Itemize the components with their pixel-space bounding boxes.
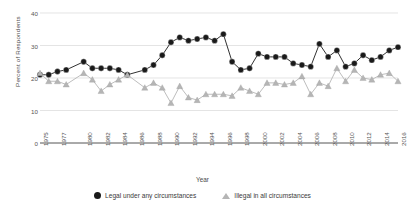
x-tick-label: 1988 (156, 132, 163, 146)
x-tick-label: 1984 (121, 132, 128, 146)
legend-label-illegal: Illegal in all circumstances (234, 192, 311, 199)
x-tick-label: 1994 (208, 132, 215, 146)
x-tick-label: 1980 (86, 132, 93, 146)
x-tick-label: 1982 (104, 132, 111, 146)
x-tick-label: 2016 (400, 132, 407, 146)
x-tick-label: 1990 (173, 132, 180, 146)
legend-item-illegal[interactable]: Illegal in all circumstances (222, 192, 311, 199)
x-tick-label: 1998 (243, 132, 250, 146)
x-tick-label: 1992 (191, 132, 198, 146)
x-tick-label: 2006 (313, 132, 320, 146)
x-tick-label: 1996 (226, 132, 233, 146)
x-tick-label: 1977 (60, 132, 67, 146)
x-tick-label: 2014 (383, 132, 390, 146)
legend-label-legal: Legal under any circumstances (105, 192, 196, 199)
triangle-marker-icon (222, 193, 230, 199)
x-tick-label: 2004 (296, 132, 303, 146)
x-tick-label: 1986 (138, 132, 145, 146)
x-tick-label: 2012 (365, 132, 372, 146)
legend-item-legal[interactable]: Legal under any circumstances (94, 192, 196, 199)
x-tick-label: 2000 (261, 132, 268, 146)
x-tick-label: 2002 (278, 132, 285, 146)
x-tick-label: 2010 (348, 132, 355, 146)
x-axis-title: Year (0, 176, 405, 183)
x-tick-label: 1975 (42, 132, 49, 146)
chart-legend: Legal under any circumstances Illegal in… (0, 192, 405, 199)
circle-marker-icon (94, 192, 101, 199)
x-tick-label: 2008 (331, 132, 338, 146)
